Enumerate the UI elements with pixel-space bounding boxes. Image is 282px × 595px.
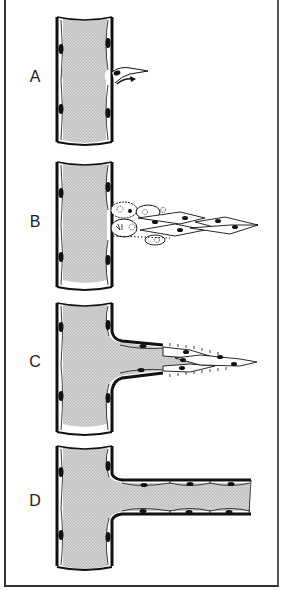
nucleus [59, 44, 64, 54]
panel-c-vessel [57, 303, 257, 435]
arrow-icon [130, 76, 136, 82]
panel-d-vessel [57, 446, 251, 570]
panel-label-b: B [25, 213, 45, 231]
panel-a-vessel [57, 17, 148, 145]
panel-b-vessel [57, 162, 258, 290]
panel-label-d: D [25, 492, 45, 510]
panel-label-c: C [25, 353, 45, 371]
panel-label-a: A [25, 68, 45, 86]
